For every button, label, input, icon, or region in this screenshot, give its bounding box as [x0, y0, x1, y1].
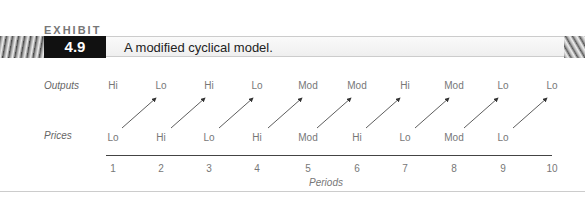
period-tick: 5: [305, 163, 311, 174]
period-tick: 3: [206, 163, 212, 174]
period-axis: [106, 155, 552, 156]
period-tick: 1: [110, 163, 116, 174]
axis-label: Periods: [309, 177, 343, 188]
period-tick: 2: [158, 163, 164, 174]
period-tick: 9: [500, 163, 506, 174]
bottom-divider: [0, 191, 585, 192]
period-tick: 4: [254, 163, 260, 174]
period-tick: 6: [354, 163, 360, 174]
period-tick: 10: [546, 163, 557, 174]
period-tick: 8: [451, 163, 457, 174]
causal-arrows: [0, 0, 585, 205]
period-tick: 7: [402, 163, 408, 174]
